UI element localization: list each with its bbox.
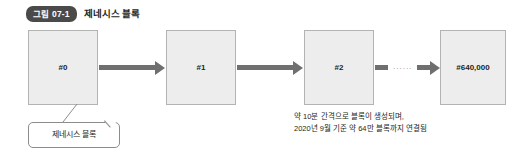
block-label: #0: [59, 64, 68, 72]
figure-header: 그림 07-1 제네시스 블록: [26, 6, 140, 22]
blockchain-diagram: #0 #1 #2 ...... #640,000: [0, 30, 527, 110]
figure-title: 제네시스 블록: [84, 9, 141, 19]
callout-leader-line: [62, 104, 78, 122]
block-label: #640,000: [456, 64, 489, 72]
figure-caption: 약 10분 간격으로 블록이 생성되며, 2020년 9월 기준 약 64만 블…: [294, 111, 427, 134]
block-node-latest: #640,000: [440, 30, 506, 105]
block-node-1: #1: [166, 30, 236, 105]
caption-line-2: 2020년 9월 기준 약 64만 블록까지 연결됨: [294, 123, 427, 135]
chain-arrow-0-to-1: [99, 65, 156, 70]
block-node-2: #2: [304, 30, 374, 105]
figure-number-badge: 그림 07-1: [26, 6, 77, 22]
chain-stub-after-block-2: [375, 65, 388, 70]
block-label: #1: [197, 64, 206, 72]
chain-ellipsis: ......: [393, 63, 413, 71]
chain-arrow-1-to-2: [237, 65, 294, 70]
block-label: #2: [335, 64, 344, 72]
block-node-0: #0: [28, 30, 98, 105]
genesis-block-callout-label: 제네시스 블록: [52, 131, 96, 139]
figure-container: 그림 07-1 제네시스 블록 #0 #1 #2 ...... #640,000…: [0, 0, 527, 161]
chain-arrow-to-latest: [417, 65, 431, 70]
caption-line-1: 약 10분 간격으로 블록이 생성되며,: [294, 111, 427, 123]
genesis-block-callout: 제네시스 블록: [28, 122, 120, 148]
